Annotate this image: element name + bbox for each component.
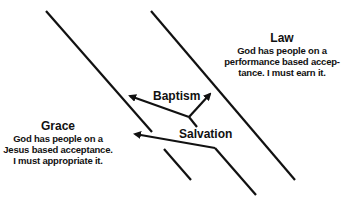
baptism-stem (189, 117, 197, 127)
salvation-label: Salvation (179, 127, 232, 141)
salvation-stem (215, 148, 256, 195)
grace-boundary-line-lower (164, 149, 191, 180)
law-description-line-3: tance. I must earn it. (222, 67, 342, 78)
grace-description-line-3: I must appropriate it. (2, 155, 114, 166)
grace-boundary-line-upper (46, 11, 152, 132)
law-description-line-2: performance based accep- (222, 56, 342, 67)
baptism-label: Baptism (153, 89, 200, 103)
grace-text-block: Grace God has people on a Jesus based ac… (2, 120, 114, 166)
grace-description-line-2: Jesus based acceptance. (2, 144, 114, 155)
law-title: Law (222, 32, 342, 45)
grace-description-line-1: God has people on a (2, 133, 114, 144)
grace-title: Grace (2, 120, 114, 133)
law-text-block: Law God has people on a performance base… (222, 32, 342, 78)
law-description-line-1: God has people on a (222, 45, 342, 56)
